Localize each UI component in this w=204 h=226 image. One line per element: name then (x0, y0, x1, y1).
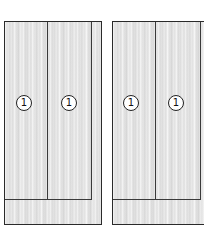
door-panel-right (113, 22, 201, 200)
door-divider-right (155, 22, 156, 200)
door-marker-left-2: 1 (61, 95, 77, 111)
cabinet-left (4, 21, 102, 225)
door-marker-right-2: 1 (168, 95, 184, 111)
door-panel-left (5, 22, 92, 200)
door-divider-left (47, 22, 48, 200)
door-marker-right-1: 1 (123, 95, 139, 111)
door-marker-left-1: 1 (16, 95, 32, 111)
cabinet-right (112, 21, 204, 225)
